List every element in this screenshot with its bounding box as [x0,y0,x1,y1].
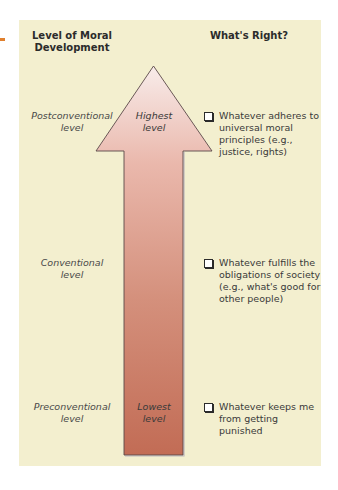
checkbox-bullet-icon [204,259,213,268]
arrow-top-label: Highest level [124,110,184,134]
checkbox-bullet-icon [204,403,213,412]
level-postconventional: Postconventional level [22,110,122,134]
checkbox-bullet-icon [204,112,213,121]
arrow-bottom-label: Lowest level [124,401,184,425]
level-conventional: Conventional level [22,257,122,281]
level-preconventional: Preconventional level [22,401,122,425]
